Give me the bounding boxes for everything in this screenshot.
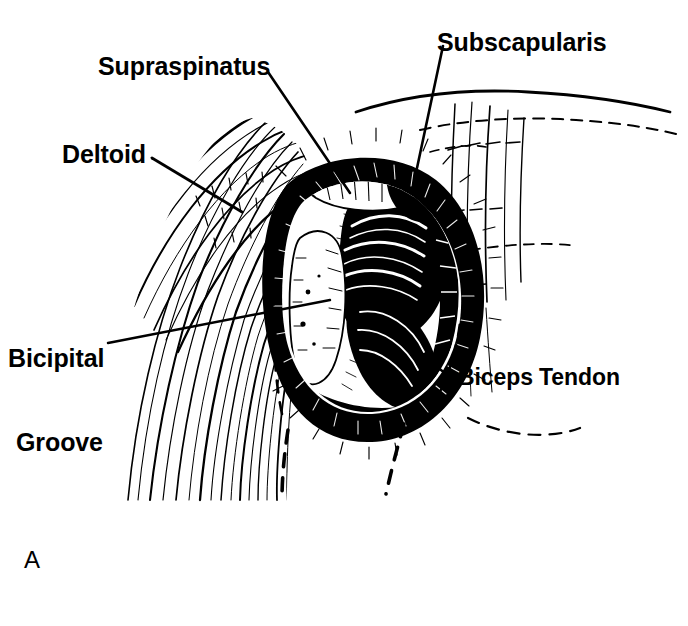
label-subscapularis: Subscapularis [437, 28, 607, 56]
label-bicipital-groove-line2: Groove [8, 428, 104, 456]
figure-panel: Supraspinatus Subscapularis Deltoid Bici… [0, 0, 688, 626]
label-deltoid: Deltoid [62, 140, 146, 168]
label-bicipital-groove: Bicipital Groove [8, 288, 104, 512]
label-supraspinatus: Supraspinatus [98, 52, 270, 80]
label-bicipital-groove-line1: Bicipital [8, 344, 104, 372]
figure-letter: A [24, 546, 40, 574]
label-biceps-tendon: Biceps Tendon [458, 365, 620, 391]
